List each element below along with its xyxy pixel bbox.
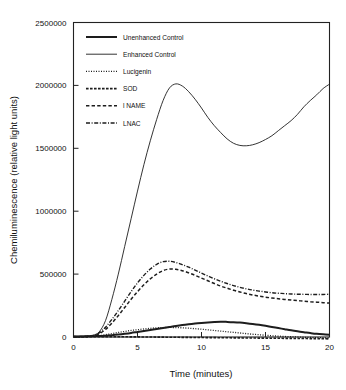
legend-label-unenhanced-control: Unenhanced Control (123, 34, 184, 41)
y-tick-label: 2500000 (35, 19, 67, 28)
x-tick-label: 10 (197, 343, 206, 352)
x-tick-label: 5 (135, 343, 140, 352)
x-tick-label: 0 (71, 343, 76, 352)
x-tick-label: 15 (261, 343, 270, 352)
y-tick-label: 1000000 (35, 207, 67, 216)
legend-label-enhanced-control: Enhanced Control (123, 51, 176, 58)
legend-label-lnac: LNAC (123, 120, 141, 127)
y-axis-title: Chemiluminescence (relative light units) (8, 96, 19, 264)
y-tick-label: 2000000 (35, 81, 67, 90)
y-tick-label: 0 (62, 333, 67, 342)
chemiluminescence-line-chart: 05000001000000150000020000002500000 0510… (0, 0, 346, 390)
y-tick-label: 1500000 (35, 144, 67, 153)
chart-figure: 05000001000000150000020000002500000 0510… (0, 0, 346, 390)
x-axis-title: Time (minutes) (170, 368, 233, 379)
x-tick-label: 20 (325, 343, 334, 352)
y-tick-label: 500000 (40, 270, 67, 279)
legend-label-lucigenin: Lucigenin (123, 68, 152, 76)
legend-label-l-name: l NAME (123, 102, 146, 109)
legend-label-sod: SOD (123, 85, 138, 92)
